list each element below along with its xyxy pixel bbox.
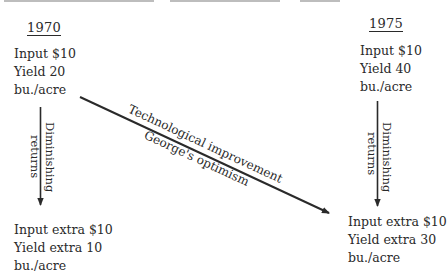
1975-unit: bu./acre: [360, 78, 422, 96]
1970-extra-input: Input extra $10: [14, 221, 113, 239]
1970-input: Input $10: [14, 45, 76, 63]
1975-extra-unit: bu./acre: [348, 249, 447, 267]
1970-extra-unit: bu./acre: [14, 257, 113, 275]
1970-yield: Yield 20: [14, 63, 76, 81]
year-1970-heading: 1970: [27, 20, 61, 36]
1970-marginal-block: Input extra $10 Yield extra 10 bu./acre: [14, 221, 113, 275]
1970-baseline-block: Input $10 Yield 20 bu./acre: [14, 45, 76, 99]
1970-returns-label: returns: [28, 135, 41, 178]
1975-yield: Yield 40: [360, 60, 422, 78]
1975-extra-yield: Yield extra 30: [348, 231, 447, 249]
1975-marginal-block: Input extra $10 Yield extra 30 bu./acre: [348, 213, 447, 267]
1970-extra-yield: Yield extra 10: [14, 239, 113, 257]
1975-diminishing-label: Diminishing: [380, 122, 393, 192]
1975-extra-input: Input extra $10: [348, 213, 447, 231]
1975-returns-label: returns: [365, 132, 378, 175]
1975-baseline-block: Input $10 Yield 40 bu./acre: [360, 42, 422, 96]
1970-unit: bu./acre: [14, 81, 76, 99]
year-1975-heading: 1975: [369, 16, 403, 32]
1970-diminishing-label: Diminishing: [43, 122, 56, 192]
1975-input: Input $10: [360, 42, 422, 60]
